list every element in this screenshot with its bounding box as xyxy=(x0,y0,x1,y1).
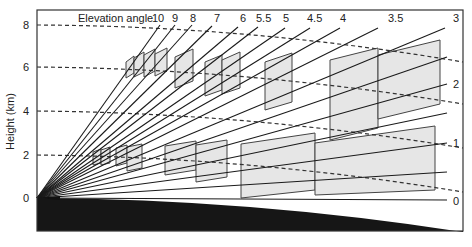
y-tick-label: 0 xyxy=(23,192,29,204)
ray-angle-label: 5 xyxy=(283,12,289,24)
y-tick-label: 4 xyxy=(23,105,29,117)
earth-surface xyxy=(37,198,463,232)
lower-sampling-boxes xyxy=(93,126,435,198)
ray-angle-label: 3.5 xyxy=(388,12,403,24)
ray-angle-label: 0 xyxy=(453,195,459,207)
elevation-angle-title: Elevation angle xyxy=(78,12,153,24)
upper-sampling-boxes xyxy=(126,40,440,140)
elevation-ray xyxy=(37,25,175,198)
y-axis-title: Height (km) xyxy=(4,93,16,150)
ray-angle-label: 3 xyxy=(453,12,459,24)
y-tick-label: 8 xyxy=(23,19,29,31)
ray-angle-label: 9 xyxy=(172,12,178,24)
ray-angle-label: 1 xyxy=(453,137,459,149)
y-tick-label: 6 xyxy=(23,61,29,73)
y-axis-ticks: 86420 xyxy=(23,19,29,204)
ray-angle-label: 6 xyxy=(240,12,246,24)
ray-angle-label: 2 xyxy=(453,78,459,90)
ray-angle-label: 7 xyxy=(214,12,220,24)
ray-angle-label: 8 xyxy=(190,12,196,24)
radar-beam-elevation-diagram: 86420 Height (km) Elevation angle 109876… xyxy=(0,0,472,247)
ray-angle-label: 10 xyxy=(152,12,164,24)
ray-angle-label: 5.5 xyxy=(256,12,271,24)
ray-angle-label: 4 xyxy=(340,12,346,24)
y-tick-label: 2 xyxy=(23,149,29,161)
elevation-ray xyxy=(37,26,212,198)
ray-angle-label: 4.5 xyxy=(307,12,322,24)
